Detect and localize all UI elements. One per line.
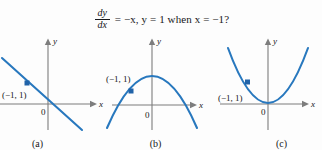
equation-remainder: = −x, y = 1 when x = −1? bbox=[115, 13, 229, 25]
marked-point-c bbox=[245, 80, 250, 85]
y-axis-a bbox=[45, 39, 51, 131]
y-axis-b bbox=[149, 39, 155, 131]
graph-panel-c: y x 0 (−1, 1) (c) bbox=[212, 30, 319, 150]
point-label-c: (−1, 1) bbox=[218, 93, 243, 103]
equation-inner: dy dx = −x, y = 1 when x = −1? bbox=[93, 8, 229, 30]
panel-caption-c: (c) bbox=[228, 138, 322, 149]
derivative-fraction: dy dx bbox=[95, 8, 110, 30]
panel-caption-a: (a) bbox=[0, 138, 91, 149]
x-axis-label-b: x bbox=[198, 100, 203, 110]
figure-root: dy dx = −x, y = 1 when x = −1? bbox=[0, 0, 322, 150]
point-label-b: (−1, 1) bbox=[106, 74, 131, 84]
graph-panel-b: y x 0 (−1, 1) (b) bbox=[104, 30, 211, 150]
marked-point-b bbox=[129, 89, 134, 94]
fraction-denominator: dx bbox=[97, 20, 108, 30]
y-axis-c bbox=[265, 39, 271, 131]
equation-statement: dy dx = −x, y = 1 when x = −1? bbox=[0, 6, 322, 30]
origin-label-b: 0 bbox=[145, 110, 150, 120]
panel-caption-b: (b) bbox=[102, 138, 209, 149]
x-axis-label-c: x bbox=[310, 99, 315, 109]
y-axis-label-b: y bbox=[156, 36, 161, 46]
origin-label-c: 0 bbox=[261, 107, 266, 117]
fraction-numerator: dy bbox=[97, 8, 108, 18]
y-axis-label-a: y bbox=[52, 36, 57, 46]
point-label-a: (−1, 1) bbox=[2, 90, 27, 100]
y-axis-label-c: y bbox=[272, 36, 277, 46]
x-axis-label-a: x bbox=[98, 99, 103, 109]
origin-label-a: 0 bbox=[41, 107, 46, 117]
marked-point-a bbox=[25, 81, 30, 86]
graph-panel-a: y x 0 (−1, 1) (a) bbox=[0, 30, 107, 150]
